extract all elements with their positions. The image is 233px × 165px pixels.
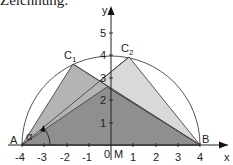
point-label-c2: C2 (121, 42, 134, 57)
point-label-a: A (10, 134, 18, 146)
x-tick-label: 1 (130, 151, 136, 163)
x-tick-label: -2 (60, 151, 70, 163)
x-tick-label: 2 (153, 151, 159, 163)
y-axis-label: y (102, 4, 108, 16)
x-tick-label: -3 (37, 151, 47, 163)
angle-label-alpha: α (26, 130, 33, 142)
y-tick-label: 3 (100, 72, 106, 84)
geometry-diagram: -4 -3 -2 -1 0 1 2 3 4 M x 1 2 3 4 5 y A … (0, 0, 233, 165)
y-tick-label: 2 (100, 94, 106, 106)
y-tick-label: 4 (100, 49, 106, 61)
y-axis-arrow-icon (108, 6, 115, 15)
y-tick-label: 1 (100, 117, 106, 129)
x-tick-label: 0 (104, 148, 110, 160)
y-tick-label: 5 (100, 27, 106, 39)
x-axis-label: x (224, 151, 230, 163)
point-label-c1: C1 (64, 49, 77, 64)
x-tick-label: -1 (82, 151, 92, 163)
point-label-m: M (114, 148, 123, 160)
point-label-b: B (202, 133, 209, 145)
x-tick-label: 4 (197, 151, 203, 163)
x-axis-arrow-icon (219, 142, 228, 149)
x-tick-label: -4 (15, 151, 25, 163)
x-tick-label: 3 (175, 151, 181, 163)
